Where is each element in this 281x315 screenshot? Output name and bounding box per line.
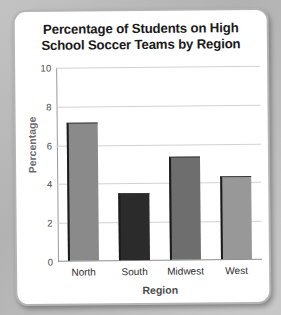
chart-card: Percentage of Students on High School So… — [13, 8, 272, 306]
x-axis-tick-label: Midwest — [167, 265, 204, 276]
x-axis-title: Region — [58, 283, 262, 297]
gridline — [57, 105, 261, 108]
y-axis-tick-label: 0 — [48, 256, 53, 267]
page-background: Percentage of Students on High School So… — [0, 0, 281, 315]
chart-title-line-2: School Soccer Teams by Region — [23, 35, 259, 53]
y-axis-tick-label: 4 — [47, 179, 52, 190]
x-axis-tick-label: South — [121, 266, 147, 277]
bar-north — [67, 123, 99, 261]
y-axis-line — [56, 68, 59, 262]
bar-midwest — [169, 157, 201, 260]
y-axis-tick-label: 2 — [47, 218, 52, 229]
y-axis-tick-label: 8 — [46, 101, 51, 112]
y-axis-tick-label: 10 — [41, 62, 52, 73]
y-axis-tick-label: 6 — [47, 140, 52, 151]
bar-west — [220, 176, 251, 260]
bar-south — [119, 193, 150, 260]
chart-title-line-1: Percentage of Students on High — [43, 20, 239, 37]
y-axis-title: Percentage — [26, 117, 39, 174]
chart-card-inner: Percentage of Students on High School So… — [15, 10, 270, 304]
chart-title: Percentage of Students on High School So… — [23, 20, 259, 53]
x-axis-tick-label: North — [71, 266, 96, 277]
plot-area: 0246810NorthSouthMidwestWest — [56, 66, 262, 262]
gridline — [56, 66, 260, 69]
x-axis-tick-label: West — [225, 265, 248, 276]
